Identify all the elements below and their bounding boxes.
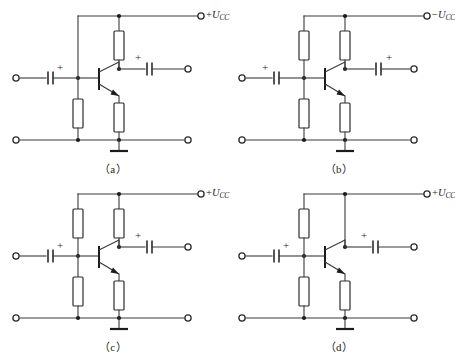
- upper-left-resistor: [299, 31, 309, 60]
- collector-resistor: [114, 209, 124, 238]
- transistor-emitter-arrow: [111, 90, 120, 97]
- transistor-collector-lead: [99, 62, 119, 72]
- supply-rail-node: [343, 14, 347, 18]
- terminal-input[interactable]: [239, 253, 245, 259]
- common-rail-node-left: [76, 138, 80, 142]
- circuit-panel-a: + +: [0, 0, 226, 179]
- terminal-supply[interactable]: [424, 13, 430, 19]
- supply-variable: U: [212, 9, 220, 20]
- lower-left-resistor: [73, 277, 83, 306]
- panel-d-schematic: + +: [239, 191, 430, 329]
- circuit-panel-c: + +: [0, 178, 226, 357]
- panel-caption-d: （d）: [226, 338, 452, 354]
- terminal-output-return[interactable]: [411, 315, 417, 321]
- terminal-input[interactable]: [239, 75, 245, 81]
- terminal-supply[interactable]: [198, 191, 204, 197]
- terminal-supply[interactable]: [198, 13, 204, 19]
- panel-b-schematic: + +: [239, 13, 430, 151]
- transistor-emitter-arrow: [337, 90, 346, 97]
- terminal-output[interactable]: [185, 66, 191, 72]
- input-capacitor-polarity: +: [57, 61, 63, 73]
- terminal-input-return[interactable]: [13, 137, 19, 143]
- lower-left-resistor: [73, 99, 83, 128]
- output-capacitor-polarity: +: [135, 229, 141, 241]
- terminal-input-return[interactable]: [239, 315, 245, 321]
- terminal-input[interactable]: [13, 253, 19, 259]
- circuit-panel-b: + +: [226, 0, 452, 179]
- collector-resistor: [340, 31, 350, 60]
- upper-left-resistor: [299, 209, 309, 238]
- common-rail-node-left: [302, 316, 306, 320]
- terminal-input-return[interactable]: [13, 315, 19, 321]
- collector-resistor: [114, 31, 124, 60]
- transistor-collector-lead: [325, 240, 345, 250]
- terminal-output[interactable]: [411, 66, 417, 72]
- emitter-resistor: [340, 281, 350, 310]
- terminal-supply[interactable]: [424, 191, 430, 197]
- terminal-input-return[interactable]: [239, 137, 245, 143]
- transistor-emitter-arrow: [337, 268, 346, 275]
- supply-variable: U: [212, 187, 220, 198]
- terminal-output-return[interactable]: [185, 137, 191, 143]
- terminal-output[interactable]: [411, 244, 417, 250]
- supply-variable: U: [438, 9, 446, 20]
- upper-left-resistor: [73, 209, 83, 238]
- input-capacitor-polarity: +: [57, 239, 63, 251]
- transistor-collector-lead: [99, 240, 119, 250]
- output-capacitor-polarity: +: [135, 51, 141, 63]
- panel-caption-c: （c）: [0, 338, 226, 354]
- transistor-collector-lead: [325, 62, 345, 72]
- transistor-emitter-arrow: [111, 268, 120, 275]
- output-capacitor-polarity: +: [386, 51, 392, 63]
- terminal-output[interactable]: [185, 244, 191, 250]
- common-rail-node-left: [76, 316, 80, 320]
- panel-c-schematic: + +: [13, 191, 204, 329]
- panel-caption-b: （b）: [226, 160, 452, 176]
- emitter-resistor: [114, 281, 124, 310]
- supply-rail-node: [343, 192, 347, 196]
- terminal-input[interactable]: [13, 75, 19, 81]
- terminal-output-return[interactable]: [185, 315, 191, 321]
- terminal-output-return[interactable]: [411, 137, 417, 143]
- input-capacitor-polarity: +: [283, 239, 289, 251]
- common-rail-node-left: [302, 138, 306, 142]
- supply-rail-node: [117, 14, 121, 18]
- panel-a-schematic: + +: [13, 13, 204, 151]
- supply-subscript: CC: [446, 13, 455, 22]
- supply-voltage-label: −UCC: [432, 9, 455, 20]
- output-capacitor-polarity: +: [361, 229, 367, 241]
- circuit-panel-d: + +: [226, 178, 452, 357]
- supply-subscript: CC: [446, 191, 455, 200]
- emitter-resistor: [114, 103, 124, 132]
- supply-rail-node: [117, 192, 121, 196]
- lower-left-resistor: [299, 277, 309, 306]
- input-capacitor-polarity: +: [262, 61, 268, 73]
- lower-left-resistor: [299, 99, 309, 128]
- supply-voltage-label: +UCC: [432, 187, 455, 198]
- supply-variable: U: [438, 187, 446, 198]
- emitter-resistor: [340, 103, 350, 132]
- panel-caption-a: （a）: [0, 160, 226, 176]
